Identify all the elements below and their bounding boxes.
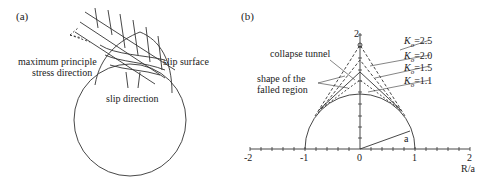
- x-axis-label: R/a: [461, 163, 475, 174]
- panel-a-label: (a): [16, 10, 28, 22]
- max-stress-label-2: stress direction: [32, 67, 92, 78]
- panel-a-drawing: [70, 8, 186, 176]
- radius-label: a: [404, 133, 408, 144]
- slip-direction-label: slip direction: [106, 93, 159, 104]
- legend-k-1-1: Ko=1.1: [404, 75, 432, 91]
- x-tick-neg1: -1: [300, 152, 308, 163]
- x-tick-neg2: -2: [244, 152, 252, 163]
- panel-b-label: (b): [241, 10, 254, 22]
- slip-surface-label: slip surface: [163, 56, 209, 67]
- x-tick-2: 2: [467, 152, 472, 163]
- shape-region-label-2: falled region: [257, 84, 308, 95]
- max-stress-label-1: maximum principle: [18, 56, 97, 67]
- x-tick-0: 0: [357, 152, 362, 163]
- collapse-tunnel-label: collapse tunnel: [270, 48, 330, 59]
- x-tick-1: 1: [412, 152, 417, 163]
- shape-region-label-1: shape of the: [257, 73, 305, 84]
- y-tick-2: 2: [354, 28, 359, 39]
- legend-k-2-5: Ko=2.5: [404, 35, 432, 51]
